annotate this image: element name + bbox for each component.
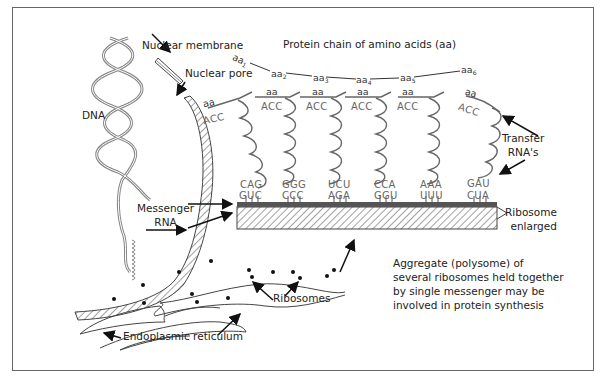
trna-2-aa: aa — [266, 87, 278, 97]
amino-acid-3: aa3 — [313, 73, 328, 84]
trna-3-aa: aa — [312, 87, 324, 97]
trna-2-acc: ACC — [261, 102, 283, 112]
label-nuclear-pore: Nuclear pore — [185, 68, 252, 80]
label-dna: DNA — [82, 110, 105, 122]
amino-acid-2: aa2 — [271, 69, 286, 80]
trna-2-anticodon: GGG — [282, 180, 306, 190]
trna-4-aa: aa — [357, 87, 369, 97]
trna-5-acc: ACC — [397, 102, 419, 112]
label-endoplasmic-reticulum: Endoplasmic reticulum — [123, 331, 243, 343]
trna-3-anticodon: UCU — [328, 180, 351, 190]
trna-4-anticodon: CCA — [374, 180, 396, 190]
trna-5-codon: UUU — [420, 191, 443, 201]
label-transfer-rnas: Transfer RNA's — [502, 131, 544, 159]
diagram-title: Protein chain of amino acids (aa) — [283, 39, 456, 51]
mrna-strand — [237, 202, 497, 207]
trna-5-anticodon: AAA — [420, 180, 442, 190]
trna-5-aa: aa — [402, 87, 414, 97]
ribosome-enlarged — [237, 207, 497, 229]
trna-1-codon: GUC — [239, 191, 262, 201]
dna-helix — [93, 38, 151, 272]
amino-acid-6: aa6 — [461, 65, 476, 76]
trna-4-acc: ACC — [351, 102, 373, 112]
label-ribosomes: Ribosomes — [273, 293, 330, 305]
trna-3-codon: AGA — [328, 191, 350, 201]
trna-6-aa: aa — [464, 87, 478, 99]
trna-3-acc: ACC — [306, 102, 328, 112]
label-nuclear-membrane: Nuclear membrane — [142, 40, 243, 52]
trna-6-anticodon: GAU — [467, 179, 490, 189]
polysome-caption: Aggregate (polysome) of several ribosome… — [393, 256, 593, 312]
mrna-coil — [132, 240, 135, 280]
amino-acid-5: aa5 — [400, 73, 415, 84]
trna-1-anticodon: CAG — [240, 180, 262, 190]
trna-4-codon: GGU — [374, 191, 398, 201]
trna-6-codon: CUA — [467, 191, 489, 201]
label-ribosome-enlarged: Ribosome enlarged — [505, 205, 557, 233]
trna-2-codon: CCC — [282, 191, 304, 201]
amino-acid-4: aa4 — [356, 75, 371, 86]
trna-1-aa: aa — [202, 97, 215, 109]
label-messenger-rna: Messenger RNA — [137, 201, 194, 229]
